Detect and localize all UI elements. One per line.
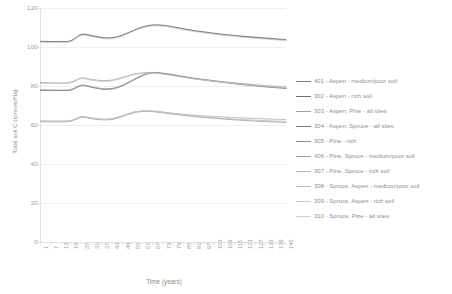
legend-color-swatch <box>296 108 311 115</box>
x-axis-tick-label: 145 <box>288 239 294 249</box>
x-axis-tick-label: 115 <box>237 240 243 249</box>
soil-carbon-line-chart: 020406080100120 Total soil C (tonnes/Ha)… <box>0 0 452 294</box>
legend-item[interactable]: 304 - Aspen, Spruce - all sites <box>296 119 452 134</box>
x-axis-tick-label: 109 <box>227 239 233 249</box>
legend-color-swatch <box>296 153 311 160</box>
legend-item-label: 406 - Pine, Spruce - medium/poor soil <box>314 153 415 160</box>
x-axis-tick-label: 73 <box>166 243 172 249</box>
x-axis-tick-label: 25 <box>84 243 90 249</box>
x-axis-tick-label: 127 <box>258 239 264 249</box>
legend-color-swatch <box>296 213 311 220</box>
legend: 401 - Aspen - medium/poor soil302 - Aspe… <box>296 74 452 224</box>
legend-item[interactable]: 308 - Spruce, Aspen - medium/poor soil <box>296 179 452 194</box>
legend-color-swatch <box>296 138 311 145</box>
x-axis-tick-label: 1 <box>43 246 49 249</box>
legend-item-label: 309 - Spruce, Aspen - rich soil <box>314 198 394 205</box>
legend-item[interactable]: 406 - Pine, Spruce - medium/poor soil <box>296 149 452 164</box>
legend-item-label: 302 - Aspen - rich soil <box>314 93 372 100</box>
x-axis-tick-label: 61 <box>145 243 151 249</box>
x-axis-tick-label: 7 <box>53 246 59 249</box>
legend-item[interactable]: 307 - Pine, Spruce - rich soil <box>296 164 452 179</box>
x-axis-tick-label: 49 <box>125 243 131 249</box>
legend-item-label: 305 - Pine - rich <box>314 138 356 145</box>
legend-item[interactable]: 309 - Spruce, Aspen - rich soil <box>296 194 452 209</box>
x-axis-tick-label: 19 <box>73 243 79 249</box>
legend-item-label: 303 - Aspen, Pine - all sites <box>314 108 387 115</box>
legend-item-label: 308 - Spruce, Aspen - medium/poor soil <box>314 183 419 190</box>
legend-color-swatch <box>296 78 311 85</box>
x-axis-tick-label: 79 <box>176 243 182 249</box>
x-axis-tick-label: 55 <box>135 243 141 249</box>
x-axis-tick-label: 133 <box>268 239 274 249</box>
legend-item[interactable]: 302 - Aspen - rich soil <box>296 89 452 104</box>
x-axis-tick-label: 67 <box>155 243 161 249</box>
x-axis-tick-label: 121 <box>247 239 253 249</box>
legend-color-swatch <box>296 168 311 175</box>
x-axis-tick-label: 37 <box>104 243 110 249</box>
legend-item-label: 310 - Spruce, Pine - all sites <box>314 213 389 220</box>
legend-color-swatch <box>296 123 311 130</box>
x-axis-tick-label: 43 <box>114 243 120 249</box>
legend-color-swatch <box>296 183 311 190</box>
legend-item-label: 304 - Aspen, Spruce - all sites <box>314 123 394 130</box>
x-axis-tick-label: 13 <box>63 243 69 249</box>
legend-item[interactable]: 310 - Spruce, Pine - all sites <box>296 209 452 224</box>
legend-color-swatch <box>296 198 311 205</box>
x-axis-tick-label: 97 <box>206 243 212 249</box>
x-axis-tick-label: 31 <box>94 243 100 249</box>
x-axis-tick-label: 103 <box>217 239 223 249</box>
legend-item[interactable]: 303 - Aspen, Pine - all sites <box>296 104 452 119</box>
legend-item[interactable]: 305 - Pine - rich <box>296 134 452 149</box>
x-axis-tick-label: 91 <box>196 243 202 249</box>
legend-item-label: 401 - Aspen - medium/poor soil <box>314 78 397 85</box>
legend-color-swatch <box>296 93 311 100</box>
x-axis-tick-label: 139 <box>278 239 284 249</box>
x-axis-tick-label: 85 <box>186 243 192 249</box>
legend-item[interactable]: 401 - Aspen - medium/poor soil <box>296 74 452 89</box>
legend-item-label: 307 - Pine, Spruce - rich soil <box>314 168 390 175</box>
x-axis-title: Time (years) <box>40 278 288 286</box>
